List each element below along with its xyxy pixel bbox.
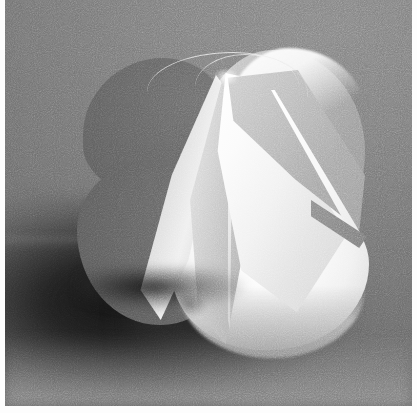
paper-margin-left xyxy=(0,0,5,413)
photograph xyxy=(5,0,412,406)
paper-margin-bottom xyxy=(0,406,417,413)
paper-margin-right xyxy=(412,0,417,413)
photograph-frame xyxy=(0,0,417,413)
film-grain xyxy=(5,0,412,406)
